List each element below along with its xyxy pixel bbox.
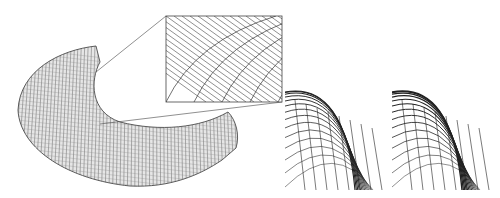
inset-connector-top [96, 16, 166, 72]
mesh-surface-graphic [0, 0, 290, 198]
main-mesh-figure [0, 0, 290, 198]
corner-detail-a [285, 80, 385, 190]
corner-mesh-a [285, 80, 385, 190]
corner-mesh-b [392, 80, 492, 190]
corner-detail-b [392, 80, 492, 190]
inset-connector-bottom [100, 102, 282, 124]
